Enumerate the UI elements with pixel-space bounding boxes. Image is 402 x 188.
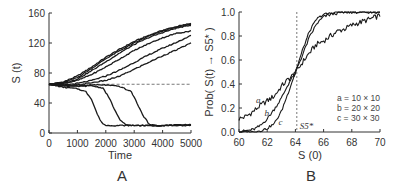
curve-label-a: a [256,95,261,105]
y-tick-label: 0.0 [221,127,235,138]
y-axis-label: Prob( S(t) → S5* ) [203,27,215,116]
x-axis-label: S (0) [298,149,322,161]
x-tick-label: 5000 [180,138,203,149]
x-tick-label: 62 [262,137,274,148]
x-tick-label: 0 [46,138,52,149]
curve-label-c: c [278,117,282,127]
panel-b: 0.00.20.40.60.81.0606264666870Prob( S(t)… [203,7,386,185]
x-tick-label: 3000 [123,138,146,149]
figure: 04080120160010002000300040005000S (t)Tim… [0,0,402,188]
series-line-run-8-down- [49,84,191,126]
x-tick-label: 4000 [151,138,174,149]
y-tick-label: 0.6 [221,55,235,66]
y-tick-label: 0.2 [221,103,235,114]
x-axis-label: Time [108,149,132,161]
y-axis-label: S (t) [10,63,22,84]
y-tick-label: 40 [34,98,46,109]
panel-label-b: B [306,167,316,184]
x-tick-label: 1000 [66,138,89,149]
legend-entry: c = 30 × 30 [337,113,380,123]
x-tick-label: 66 [318,137,330,148]
x-tick-label: 68 [346,137,358,148]
y-tick-label: 0.8 [221,31,235,42]
x-tick-label: 60 [233,137,245,148]
y-tick-label: 80 [34,68,46,79]
y-tick-label: 0 [39,128,45,139]
x-tick-label: 64 [290,137,302,148]
legend-entry: b = 20 × 20 [337,103,380,113]
panel-a: 04080120160010002000300040005000S (t)Tim… [10,8,203,185]
x-tick-label: 70 [374,137,386,148]
y-tick-label: 160 [28,8,45,19]
y-tick-label: 120 [28,38,45,49]
y-tick-label: 1.0 [221,7,235,18]
panel-label-a: A [117,167,127,184]
x-tick-label: 2000 [95,138,118,149]
series-line-run-5-up- [49,35,191,85]
y-tick-label: 0.4 [221,79,235,90]
curve-label-b: b [264,108,269,118]
threshold-label: S5* [300,121,314,131]
legend-entry: a = 10 × 10 [337,93,380,103]
